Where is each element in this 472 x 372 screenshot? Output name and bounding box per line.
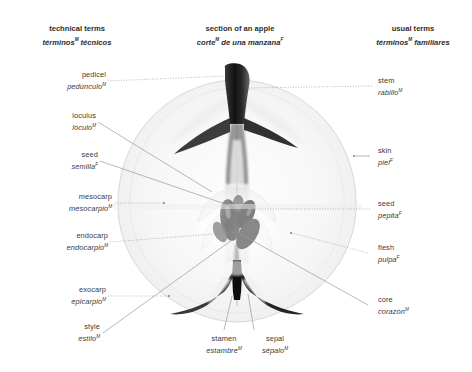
label-seed-right[interactable]: seed pepitaF: [378, 199, 468, 221]
figure-title-en: section of an apple: [176, 24, 304, 35]
apple-cross-section-illustration: [112, 62, 362, 330]
label-loculus[interactable]: loculus lóculoM: [10, 111, 96, 133]
label-core-en: core: [378, 295, 468, 305]
label-seed-left-es: semillaF: [10, 160, 98, 172]
midline-band: [112, 204, 362, 209]
label-skin[interactable]: skin pielF: [378, 146, 468, 168]
label-seed-left-en: seed: [10, 150, 98, 160]
label-pedicel-es: pedúnculoM: [10, 80, 106, 92]
label-style-en: style: [14, 322, 100, 332]
label-seed-left[interactable]: seed semillaF: [10, 150, 98, 172]
figure-title: section of an apple corteM de una manzan…: [176, 24, 304, 48]
column-header-right-en: usual terms: [354, 24, 472, 35]
label-exocarp-en: exocarp: [8, 285, 106, 295]
column-header-left-es: términosM técnicos: [18, 35, 136, 48]
label-loculus-es: lóculoM: [10, 121, 96, 133]
label-sepal-en: sepal: [240, 334, 310, 344]
label-skin-es: pielF: [378, 156, 468, 168]
label-endocarp[interactable]: endocarp endocarpioM: [6, 231, 108, 253]
label-exocarp-es: epicarpioM: [8, 295, 106, 307]
label-core[interactable]: core corazónM: [378, 295, 468, 317]
label-style[interactable]: style estiloM: [14, 322, 100, 344]
label-stem-es: rabilloM: [378, 86, 468, 98]
column-header-left-en: technical terms: [18, 24, 136, 35]
label-core-es: corazónM: [378, 305, 468, 317]
label-flesh-es: pulpaF: [378, 253, 468, 265]
column-header-left: technical terms términosM técnicos: [18, 24, 136, 48]
label-endocarp-en: endocarp: [6, 231, 108, 241]
label-loculus-en: loculus: [10, 111, 96, 121]
column-header-right-es: términosM familiares: [354, 35, 472, 48]
label-endocarp-es: endocarpioM: [6, 241, 108, 253]
label-pedicel[interactable]: pedicel pedúnculoM: [10, 70, 106, 92]
label-style-es: estiloM: [14, 332, 100, 344]
label-exocarp[interactable]: exocarp epicarpioM: [8, 285, 106, 307]
label-mesocarp-en: mesocarp: [6, 192, 112, 202]
label-seed-right-es: pepitaF: [378, 209, 468, 221]
calyx-highlight: [226, 260, 248, 276]
label-stem-en: stem: [378, 76, 468, 86]
figure-root: technical terms términosM técnicos secti…: [0, 0, 472, 372]
label-flesh-en: flesh: [378, 243, 468, 253]
apple-artwork-svg: [112, 62, 362, 330]
figure-title-es: corteM de una manzanaF: [176, 35, 304, 48]
column-header-right: usual terms términosM familiares: [354, 24, 472, 48]
label-stem[interactable]: stem rabilloM: [378, 76, 468, 98]
label-pedicel-en: pedicel: [10, 70, 106, 80]
label-skin-en: skin: [378, 146, 468, 156]
label-mesocarp-es: mesocarpioM: [6, 202, 112, 214]
label-flesh[interactable]: flesh pulpaF: [378, 243, 468, 265]
label-mesocarp[interactable]: mesocarp mesocarpioM: [6, 192, 112, 214]
label-seed-right-en: seed: [378, 199, 468, 209]
label-sepal-es: sépaloM: [240, 344, 310, 356]
label-sepal[interactable]: sepal sépaloM: [240, 334, 310, 356]
